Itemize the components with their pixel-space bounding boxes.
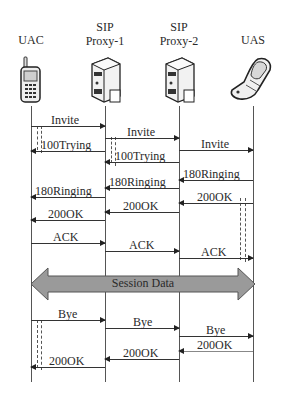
message-100trying-proxy2-proxy1: 100Trying (105, 162, 179, 163)
arrowhead-icon (100, 317, 106, 323)
message-label: Invite (201, 137, 229, 152)
message-label: 100Trying (41, 138, 91, 153)
server-icon-proxy1 (86, 56, 126, 104)
message-invite-proxy1-proxy2: Invite (105, 138, 179, 139)
message-bye-uac-proxy1: Bye (31, 320, 105, 321)
participant-label-proxy1-line2: Proxy-1 (80, 35, 130, 48)
timer-marker (41, 320, 42, 370)
message-200ok-proxy1-uac: 200OK (31, 220, 105, 221)
message-label: 100Trying (115, 149, 165, 164)
message-180ringing-uas-proxy2: 180Ringing (179, 180, 253, 181)
message-bye-proxy2-uas: Bye (179, 336, 253, 337)
lifeline-proxy2 (179, 106, 180, 382)
message-label: 200OK (123, 346, 158, 361)
message-180ringing-proxy2-proxy1: 180Ringing (105, 188, 179, 189)
message-ack-uac-proxy1: ACK (31, 243, 105, 244)
timer-marker (245, 198, 246, 262)
message-100trying-proxy1-uac: 100Trying (31, 151, 105, 152)
arrowhead-icon (100, 123, 106, 129)
arrowhead-icon (104, 185, 110, 191)
message-200ok-proxy2-proxy1: 200OK (105, 212, 179, 213)
arrowhead-icon (248, 255, 254, 261)
message-label: Bye (58, 307, 77, 322)
timer-marker (240, 198, 241, 260)
message-label: 200OK (49, 354, 84, 369)
arrowhead-icon (100, 240, 106, 246)
arrowhead-icon (104, 159, 110, 165)
arrowhead-icon (174, 248, 180, 254)
arrowhead-icon (104, 209, 110, 215)
server-icon-proxy2 (160, 56, 200, 104)
arrowhead-icon (30, 217, 36, 223)
arrowhead-icon (248, 147, 254, 153)
message-label: 200OK (48, 207, 83, 222)
message-180ringing-proxy1-uac: 180Ringing (31, 197, 105, 198)
message-label: 180Ringing (183, 167, 240, 182)
message-label: 200OK (197, 338, 232, 353)
timer-marker (37, 126, 38, 150)
message-invite-proxy2-uas: Invite (179, 150, 253, 151)
session-data-label: Session Data (29, 277, 257, 290)
message-label: Invite (51, 113, 79, 128)
mobile-phone-icon (18, 55, 44, 105)
message-200ok-uas-proxy2-bye: 200OK (179, 351, 253, 352)
message-invite-uac-proxy1: Invite (31, 126, 105, 127)
message-label: Invite (127, 125, 155, 140)
participant-label-uac: UAC (8, 34, 54, 47)
message-label: Bye (133, 315, 152, 330)
arrowhead-icon (104, 356, 110, 362)
arrowhead-icon (178, 348, 184, 354)
message-label: 180Ringing (35, 184, 92, 199)
participant-label-proxy2-line2: Proxy-2 (154, 35, 204, 48)
message-label: ACK (201, 245, 226, 260)
message-bye-proxy1-proxy2: Bye (105, 328, 179, 329)
message-label: ACK (129, 238, 154, 253)
arrowhead-icon (178, 177, 184, 183)
timer-marker (37, 320, 38, 368)
message-label: 180Ringing (109, 175, 166, 190)
participant-label-proxy2-line1: SIP (154, 21, 204, 34)
message-200ok-proxy2-proxy1-bye: 200OK (105, 359, 179, 360)
arrowhead-icon (174, 325, 180, 331)
arrowhead-icon (174, 135, 180, 141)
arrowhead-icon (248, 333, 254, 339)
arrowhead-icon (30, 194, 36, 200)
participant-label-proxy1-line1: SIP (80, 21, 130, 34)
message-ack-proxy1-proxy2: ACK (105, 251, 179, 252)
arrowhead-icon (30, 148, 36, 154)
message-label: 200OK (197, 190, 232, 205)
message-200ok-uas-proxy2: 200OK (179, 203, 253, 204)
message-label: ACK (53, 230, 78, 245)
message-ack-proxy2-uas: ACK (179, 258, 253, 259)
participant-label-uas: UAS (230, 34, 276, 47)
message-label: Bye (206, 323, 225, 338)
message-200ok-proxy1-uac-bye: 200OK (31, 367, 105, 368)
message-label: 200OK (123, 199, 158, 214)
arrowhead-icon (178, 200, 184, 206)
timer-marker (111, 137, 112, 163)
arrowhead-icon (30, 364, 36, 370)
flip-phone-icon (228, 56, 276, 102)
